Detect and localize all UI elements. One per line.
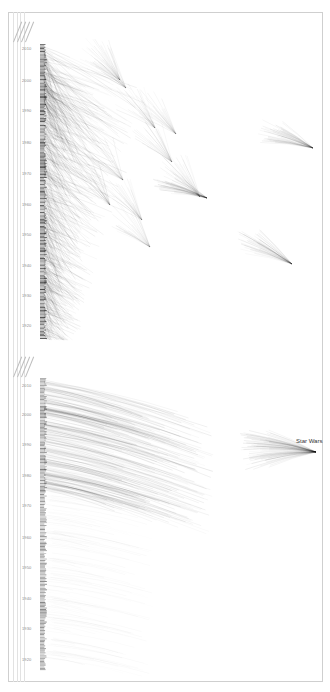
year-tick-label: 1980 [22, 140, 31, 145]
year-tick-label: 1990 [22, 442, 31, 447]
year-tick-label: 1970 [22, 171, 31, 176]
year-tick-label: 1930 [22, 293, 31, 298]
year-tick-label: 1950 [22, 565, 31, 570]
year-tick-label: 1960 [22, 202, 31, 207]
year-tick-label: 2000 [22, 78, 31, 83]
year-tick-label: 1990 [22, 108, 31, 113]
year-tick-label: 1940 [22, 263, 31, 268]
star-wars-label: Star Wars [296, 438, 322, 444]
year-tick-label: 2010 [22, 46, 31, 51]
year-tick-label: 1980 [22, 473, 31, 478]
reference-network-plot [0, 0, 330, 692]
year-tick-label: 2000 [22, 412, 31, 417]
year-tick-label: 1920 [22, 323, 31, 328]
year-tick-label: 1930 [22, 626, 31, 631]
year-tick-label: 1920 [22, 657, 31, 662]
year-tick-label: 2010 [22, 383, 31, 388]
year-tick-label: 1940 [22, 596, 31, 601]
year-tick-label: 1960 [22, 535, 31, 540]
year-tick-label: 1950 [22, 232, 31, 237]
year-tick-label: 1970 [22, 503, 31, 508]
